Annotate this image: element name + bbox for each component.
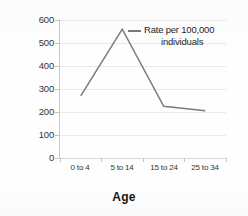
legend-item: Rate per 100,000individuals: [128, 24, 240, 48]
x-axis-title: Age: [0, 190, 248, 204]
legend-label-line-2: individuals: [144, 36, 214, 48]
line-chart: 600 500 400 300 200 100 0 0 to 4 5 to 14…: [0, 0, 248, 216]
chart-legend: Rate per 100,000individuals: [128, 24, 240, 48]
legend-label-line-1: Rate per 100,000: [144, 24, 214, 35]
x-axis-tick-label: 25 to 34: [191, 163, 218, 173]
legend-item-label: Rate per 100,000individuals: [144, 24, 214, 48]
x-axis-tick-label: 15 to 24: [150, 163, 177, 173]
legend-line-swatch-icon: [128, 25, 141, 35]
x-axis-tick-label: 5 to 14: [110, 163, 133, 173]
x-axis-tick-label: 0 to 4: [71, 163, 90, 173]
